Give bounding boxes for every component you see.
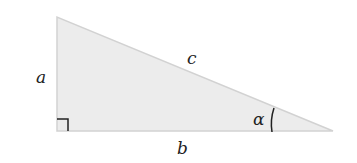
triangle-shape — [57, 17, 333, 131]
label-side-b: b — [177, 138, 188, 158]
label-hypotenuse-c: c — [187, 48, 197, 68]
label-angle-alpha: α — [253, 109, 265, 129]
label-side-a: a — [36, 67, 46, 87]
triangle-diagram: a c b α — [0, 0, 357, 163]
